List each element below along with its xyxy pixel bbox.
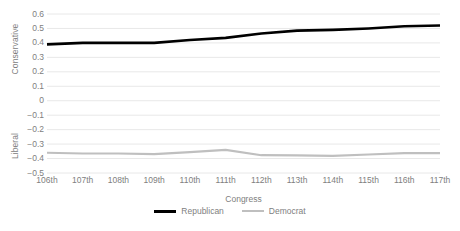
x-tick-label: 114th [313,176,353,185]
legend-label: Democrat [269,207,306,216]
y-tick-label: 0.3 [4,53,44,62]
y-tick-label: −0.4 [4,154,44,163]
legend-swatch-icon [242,210,264,212]
y-axis-tick-labels: 0.60.50.40.30.20.10−0.1−0.2−0.3−0.4−0.5 [0,14,44,173]
legend-swatch-icon [154,210,176,213]
plot-area [47,14,440,173]
x-axis-title: Congress [47,194,440,204]
series-line-republican [47,26,440,45]
x-axis-tick-labels: 106th107th108th109th110th111th112th113th… [47,176,440,190]
y-tick-label: 0.4 [4,38,44,47]
line-chart: Conservative Liberal 0.60.50.40.30.20.10… [0,0,460,231]
x-tick-label: 109th [134,176,174,185]
x-tick-label: 112th [241,176,281,185]
chart-legend: RepublicanDemocrat [0,207,460,216]
x-tick-label: 115th [349,176,389,185]
x-tick-label: 106th [27,176,67,185]
x-tick-label: 111th [206,176,246,185]
y-tick-label: 0.1 [4,82,44,91]
y-tick-label: −0.3 [4,140,44,149]
y-tick-label: 0 [4,96,44,105]
y-tick-label: −0.1 [4,111,44,120]
y-tick-label: −0.2 [4,125,44,134]
legend-label: Republican [181,207,224,216]
series-lines [47,14,440,173]
y-tick-label: 0.5 [4,24,44,33]
x-tick-label: 113th [277,176,317,185]
series-line-democrat [47,150,440,156]
legend-item-republican[interactable]: Republican [154,207,224,216]
x-tick-label: 110th [170,176,210,185]
y-tick-label: 0.2 [4,67,44,76]
y-tick-label: 0.6 [4,10,44,19]
x-tick-label: 107th [63,176,103,185]
x-tick-label: 116th [384,176,424,185]
x-tick-label: 117th [420,176,460,185]
x-tick-label: 108th [98,176,138,185]
legend-item-democrat[interactable]: Democrat [242,207,306,216]
